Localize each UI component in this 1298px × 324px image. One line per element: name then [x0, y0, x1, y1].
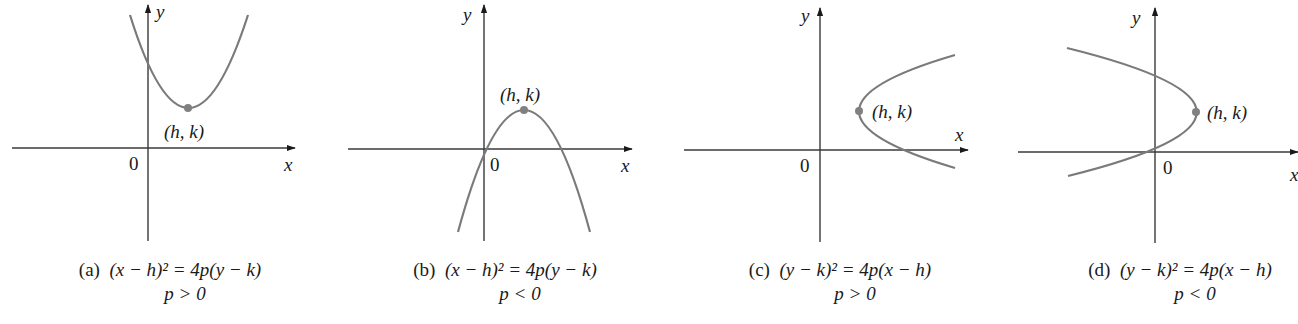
y-axis-label: y	[461, 4, 472, 25]
parabola-curve	[1067, 48, 1197, 176]
caption-d: (d) (y − k)² = 4p(x − h) p < 0	[1030, 258, 1298, 306]
parabola-curve	[458, 110, 590, 232]
vertex-label: (h, k)	[872, 101, 912, 123]
y-axis-label: y	[799, 5, 810, 26]
caption-tag: (c)	[749, 259, 770, 280]
origin-label: 0	[800, 155, 810, 176]
caption-equation: (a) (x − h)² = 4p(y − k)	[20, 258, 320, 282]
caption-condition: p > 0	[690, 282, 990, 306]
y-axis-label: y	[154, 1, 165, 22]
caption-equation-text: (x − h)² = 4p(y − k)	[445, 259, 597, 280]
caption-equation-text: (y − k)² = 4p(x − h)	[1120, 259, 1272, 280]
caption-condition: p < 0	[355, 282, 655, 306]
caption-condition: p > 0	[20, 282, 320, 306]
caption-condition: p < 0	[1030, 282, 1298, 306]
panel-b: (h, k) 0 x y	[348, 4, 632, 241]
caption-tag: (d)	[1088, 259, 1110, 280]
caption-equation-text: (x − h)² = 4p(y − k)	[109, 259, 261, 280]
caption-equation-text: (y − k)² = 4p(x − h)	[779, 259, 931, 280]
vertex-point	[855, 107, 863, 115]
x-axis-label: x	[283, 154, 293, 175]
origin-label: 0	[490, 154, 500, 175]
caption-tag: (b)	[413, 259, 435, 280]
vertex-point	[520, 106, 528, 114]
x-axis-label: x	[954, 124, 964, 145]
caption-equation: (c) (y − k)² = 4p(x − h)	[690, 258, 990, 282]
vertex-label: (h, k)	[164, 121, 204, 143]
origin-label: 0	[1163, 157, 1173, 178]
x-axis-label: x	[620, 155, 630, 176]
caption-equation: (d) (y − k)² = 4p(x − h)	[1030, 258, 1298, 282]
panel-d: (h, k) 0 x y	[1018, 7, 1298, 243]
panel-c: (h, k) 0 x y	[684, 5, 968, 242]
caption-a: (a) (x − h)² = 4p(y − k) p > 0	[20, 258, 320, 306]
x-axis-label: x	[1289, 164, 1298, 185]
caption-c: (c) (y − k)² = 4p(x − h) p > 0	[690, 258, 990, 306]
origin-label: 0	[129, 153, 139, 174]
y-axis-label: y	[1130, 7, 1141, 28]
caption-b: (b) (x − h)² = 4p(y − k) p < 0	[355, 258, 655, 306]
caption-tag: (a)	[79, 259, 100, 280]
vertex-label: (h, k)	[1207, 102, 1247, 124]
caption-equation: (b) (x − h)² = 4p(y − k)	[355, 258, 655, 282]
parabola-figure: (h, k) 0 x y (h, k) 0 x y (h, k) 0 x y	[0, 0, 1298, 324]
vertex-point	[184, 104, 192, 112]
vertex-label: (h, k)	[500, 84, 540, 106]
vertex-point	[1192, 108, 1200, 116]
panel-a: (h, k) 0 x y	[12, 1, 295, 241]
